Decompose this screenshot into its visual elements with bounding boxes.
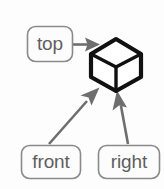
diagram-canvas: top front right (0, 0, 164, 189)
arrow-right-to-cube-head (113, 91, 128, 111)
arrow-front-to-cube-head (81, 88, 100, 106)
cube-views-diagram: top front right (0, 0, 164, 189)
arrow-front-to-cube-shaft (49, 101, 87, 144)
node-right[interactable]: right (99, 146, 160, 179)
node-front-label: front (32, 151, 70, 172)
node-top[interactable]: top (28, 27, 73, 62)
arrow-right-to-cube (113, 91, 129, 145)
cube-icon (91, 39, 141, 91)
node-front[interactable]: front (22, 146, 81, 179)
arrow-front-to-cube (49, 88, 100, 145)
node-right-label: right (111, 151, 148, 172)
node-top-label: top (37, 33, 63, 54)
arrow-right-to-cube-shaft (121, 106, 128, 144)
